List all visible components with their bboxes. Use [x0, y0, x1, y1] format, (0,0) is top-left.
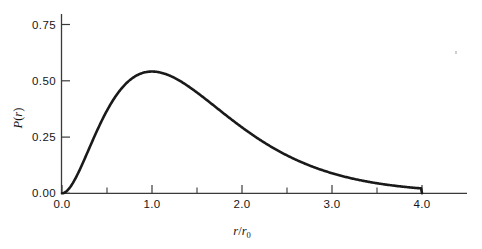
x-tick-label-2.0: 2.0 — [233, 198, 250, 210]
probability-curve — [62, 72, 422, 194]
x-tick-label-3.0: 3.0 — [323, 198, 340, 210]
y-tick-label-0.25: 0.25 — [32, 131, 56, 143]
y-tick-label-0.50: 0.50 — [32, 75, 56, 87]
y-tick-label-0.75: 0.75 — [32, 19, 56, 31]
radial-probability-chart: 0.75 0.50 0.25 0.00 0.0 1.0 2.0 3.0 4.0 … — [0, 0, 482, 249]
y-axis-title-paren-close: ) — [11, 108, 25, 112]
svg-text:P(r): P(r) — [11, 108, 25, 130]
x-axis-title: r/r0 — [233, 224, 250, 240]
svg-text:r/r0: r/r0 — [233, 224, 250, 240]
y-tick-label-0.00: 0.00 — [32, 187, 56, 199]
y-axis-title: P(r) — [11, 108, 25, 130]
scan-artifact-speck — [455, 51, 457, 54]
x-tick-label-4.0: 4.0 — [413, 198, 430, 210]
x-axis-title-sub: 0 — [246, 230, 250, 240]
x-tick-label-0.0: 0.0 — [53, 198, 70, 210]
x-tick-label-1.0: 1.0 — [143, 198, 160, 210]
